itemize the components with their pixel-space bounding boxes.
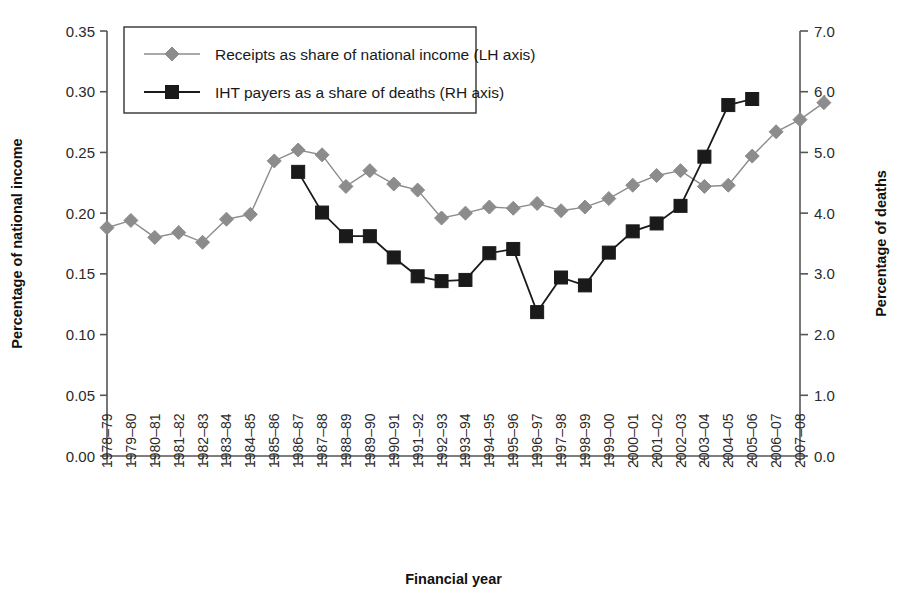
data-point-marker <box>363 230 376 243</box>
data-point-marker <box>316 206 329 219</box>
data-point-marker <box>793 113 807 127</box>
right-axis-tick-label: 0.0 <box>814 448 835 465</box>
x-axis-tick-label: 1997–98 <box>553 413 569 468</box>
left-axis-tick-label: 0.00 <box>66 448 95 465</box>
left-axis-tick-label: 0.25 <box>66 144 95 161</box>
data-point-marker <box>626 178 640 192</box>
x-axis-tick-label: 2002–03 <box>673 413 689 468</box>
left-axis-tick-label: 0.30 <box>66 83 95 100</box>
data-point-marker <box>363 164 377 178</box>
data-point-marker <box>291 143 305 157</box>
x-axis-tick-label: 1978–79 <box>99 413 115 468</box>
legend: Receipts as share of national income (LH… <box>124 27 535 113</box>
data-point-marker <box>530 196 544 210</box>
right-axis-tick-label: 5.0 <box>814 144 835 161</box>
data-point-marker <box>483 247 496 260</box>
data-point-marker <box>172 226 186 240</box>
x-axis-tick-label: 1995–96 <box>505 413 521 468</box>
data-point-marker <box>674 199 687 212</box>
x-axis-tick-label: 2003–04 <box>696 413 712 468</box>
x-axis-tick-label: 1979–80 <box>123 413 139 468</box>
left-axis-tick-label: 0.20 <box>66 205 95 222</box>
bottom-axis-title: Financial year <box>405 571 502 587</box>
series-line <box>107 103 824 243</box>
x-axis-tick-label: 1987–88 <box>314 413 330 468</box>
x-axis-tick-label: 1984–85 <box>242 413 258 468</box>
data-point-marker <box>339 179 353 193</box>
x-axis-tick-label: 1996–97 <box>529 413 545 468</box>
x-axis-tick-label: 2004–05 <box>720 413 736 468</box>
data-point-marker <box>578 279 591 292</box>
data-point-marker <box>650 217 663 230</box>
right-axis-tick-label: 2.0 <box>814 326 835 343</box>
x-axis-tick-label: 1985–86 <box>266 413 282 468</box>
x-axis-tick-label: 1989–90 <box>362 413 378 468</box>
data-point-marker <box>602 246 615 259</box>
data-point-marker <box>555 271 568 284</box>
data-point-marker <box>554 204 568 218</box>
x-axis-tick-label: 1999–00 <box>601 413 617 468</box>
x-axis-tick-label: 2005–06 <box>744 413 760 468</box>
x-axis-tick-label: 2007–08 <box>792 413 808 468</box>
data-point-marker <box>531 306 544 319</box>
data-point-marker <box>435 275 448 288</box>
x-axis-tick-label: 1992–93 <box>434 413 450 468</box>
data-point-marker <box>100 221 114 235</box>
data-point-marker <box>578 200 592 214</box>
right-axis-title: Percentage of deaths <box>873 170 889 317</box>
data-point-marker <box>459 273 472 286</box>
x-axis-tick-label: 1988–89 <box>338 413 354 468</box>
data-point-marker <box>722 99 735 112</box>
left-axis-tick-label: 0.15 <box>66 265 95 282</box>
x-axis-tick-label: 2006–07 <box>768 413 784 468</box>
data-point-marker <box>602 192 616 206</box>
data-point-marker <box>243 207 257 221</box>
x-axis-tick-label: 1991–92 <box>410 413 426 468</box>
legend-square-icon <box>166 86 179 99</box>
x-axis-tick-label: 1990–91 <box>386 413 402 468</box>
data-point-marker <box>315 148 329 162</box>
right-axis-tick-label: 4.0 <box>814 205 835 222</box>
chart-figure: 0.000.050.100.150.200.250.300.350.01.02.… <box>0 0 906 607</box>
x-axis-tick-label: 1981–82 <box>171 413 187 468</box>
chart-canvas: 0.000.050.100.150.200.250.300.350.01.02.… <box>0 0 906 607</box>
x-axis-tick-label: 1986–87 <box>290 413 306 468</box>
data-point-marker <box>507 242 520 255</box>
right-axis-tick-label: 3.0 <box>814 265 835 282</box>
left-axis-tick-label: 0.35 <box>66 23 95 40</box>
data-point-marker <box>482 200 496 214</box>
data-point-marker <box>148 230 162 244</box>
legend-item-label: IHT payers as a share of deaths (RH axis… <box>215 84 504 101</box>
data-point-marker <box>698 150 711 163</box>
data-point-marker <box>387 251 400 264</box>
data-point-marker <box>506 201 520 215</box>
data-point-marker <box>458 206 472 220</box>
x-axis-tick-label: 1994–95 <box>481 413 497 468</box>
x-axis-tick-label: 2001–02 <box>649 413 665 468</box>
data-point-marker <box>746 93 759 106</box>
left-axis-tick-label: 0.10 <box>66 326 95 343</box>
data-point-marker <box>292 165 305 178</box>
data-point-marker <box>411 270 424 283</box>
data-point-marker <box>626 225 639 238</box>
x-axis-tick-label: 1980–81 <box>147 413 163 468</box>
left-axis-tick-label: 0.05 <box>66 387 95 404</box>
left-axis-title: Percentage of national income <box>9 138 25 348</box>
data-point-marker <box>387 177 401 191</box>
x-axis-tick-label: 2000–01 <box>625 413 641 468</box>
data-point-marker <box>674 164 688 178</box>
data-point-marker <box>124 213 138 227</box>
right-axis-tick-label: 7.0 <box>814 23 835 40</box>
x-axis-tick-label: 1983–84 <box>218 413 234 468</box>
x-axis-tick-label: 1998–99 <box>577 413 593 468</box>
data-point-marker <box>697 179 711 193</box>
x-axis-tick-label: 1993–94 <box>457 413 473 468</box>
x-axis-tick-label: 1982–83 <box>195 413 211 468</box>
legend-item-label: Receipts as share of national income (LH… <box>215 46 535 63</box>
data-point-marker <box>650 169 664 183</box>
right-axis-tick-label: 1.0 <box>814 387 835 404</box>
data-point-marker <box>267 154 281 168</box>
data-point-marker <box>339 230 352 243</box>
